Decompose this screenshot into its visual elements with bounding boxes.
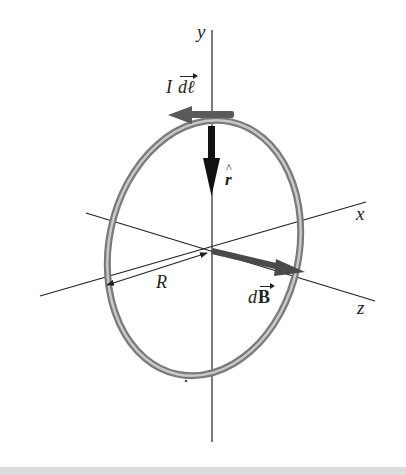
current-element-label-dl: dℓ <box>178 78 195 96</box>
vector-arrow-icon <box>260 286 272 287</box>
current-loop-ring <box>84 102 323 394</box>
ring-mark-dot <box>185 380 188 383</box>
diagram-canvas <box>0 0 406 475</box>
radius-label: R <box>156 273 167 291</box>
bottom-edge-bar <box>0 467 406 475</box>
vector-arrow-icon <box>180 76 195 77</box>
unit-vector-base: r <box>225 171 232 188</box>
field-element-label-B: B <box>258 288 270 306</box>
unit-vector-r-arrow <box>203 126 220 196</box>
y-axis-label: y <box>197 22 205 41</box>
z-axis-label: z <box>357 298 364 317</box>
field-element-label-d: d <box>248 288 257 306</box>
x-axis-label: x <box>356 204 364 223</box>
field-element-arrow <box>212 251 305 276</box>
current-loop-diagram: y x z R I dℓ ^ r d B <box>0 0 406 475</box>
current-element-label-I: I <box>166 78 172 96</box>
